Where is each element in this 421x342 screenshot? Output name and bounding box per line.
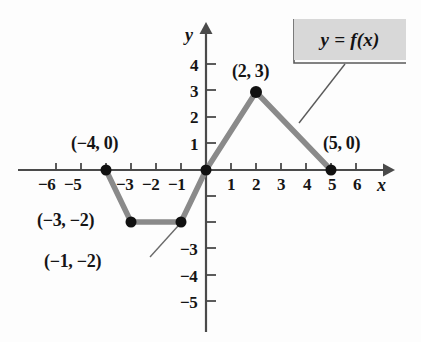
x-tick-label-0: −6	[38, 176, 55, 193]
y-tick-label-4: −3	[180, 241, 197, 258]
x-tick-label-10: 6	[353, 176, 361, 193]
function-graph-figure: y = f(x) y x −6−5−3−2−1123456 4321−3−4−5…	[0, 0, 421, 342]
x-tick-label-8: 4	[303, 176, 311, 193]
point-label-neg4-0: (−4, 0)	[71, 134, 118, 152]
y-tick-label-6: −5	[180, 294, 197, 311]
x-tick-label-6: 2	[252, 176, 260, 193]
x-tick-label-5: 1	[227, 176, 235, 193]
y-tick-label-5: −4	[180, 268, 197, 285]
x-tick-label-3: −2	[142, 176, 159, 193]
data-point-markers	[101, 86, 337, 228]
data-point-5-0	[326, 165, 337, 176]
leader-line-neg1-neg2	[150, 226, 178, 257]
data-point-2-3	[250, 86, 262, 98]
point-label-2-3: (2, 3)	[232, 62, 269, 80]
y-axis-arrowhead	[200, 22, 213, 34]
legend-leader-line	[299, 64, 345, 123]
x-axis-label: x	[377, 176, 386, 194]
data-point-neg1-neg2	[176, 217, 187, 228]
x-tick-label-2: −3	[116, 176, 133, 193]
legend-box: y = f(x)	[294, 19, 406, 60]
y-tick-label-2: 2	[190, 109, 198, 126]
data-point-neg4-0	[101, 165, 112, 176]
point-label-neg1-neg2: (−1, −2)	[44, 252, 101, 270]
point-label-neg3-neg2: (−3, −2)	[37, 211, 94, 229]
function-curve	[106, 92, 331, 222]
data-point-neg3-neg2	[126, 217, 137, 228]
data-point-0-0	[201, 165, 212, 176]
x-tick-label-9: 5	[328, 176, 336, 193]
point-label-5-0: (5, 0)	[323, 134, 360, 152]
x-tick-label-4: −1	[168, 176, 185, 193]
y-axis-ticks	[206, 64, 216, 301]
y-axis-label: y	[185, 26, 193, 44]
y-tick-label-0: 4	[190, 57, 198, 74]
legend-label: y = f(x)	[321, 29, 380, 51]
x-tick-label-1: −5	[64, 176, 81, 193]
y-tick-label-3: 1	[190, 136, 198, 153]
x-tick-label-7: 3	[277, 176, 285, 193]
y-tick-label-1: 3	[190, 83, 198, 100]
